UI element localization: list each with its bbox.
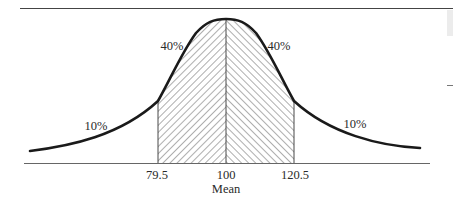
label-left-center-percent: 40%: [161, 39, 184, 53]
page-edge-panel: [447, 10, 453, 36]
label-left-tail-percent: 10%: [85, 119, 108, 133]
page-edge-dash: [447, 85, 453, 86]
label-right-center-percent: 40%: [268, 39, 291, 53]
tick-label-100: 100: [217, 168, 236, 182]
chart-canvas: 40% 40% 10% 10% 79.5 100 120.5 Mean: [0, 0, 453, 202]
tick-label-79-5: 79.5: [146, 168, 168, 182]
normal-distribution-figure: 40% 40% 10% 10% 79.5 100 120.5 Mean: [0, 0, 453, 202]
axis-caption-mean: Mean: [212, 182, 241, 196]
label-right-tail-percent: 10%: [344, 117, 367, 131]
tick-label-120-5: 120.5: [281, 168, 309, 182]
